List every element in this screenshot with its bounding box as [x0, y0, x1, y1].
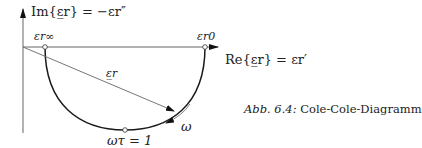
- eps-inf-point: [43, 45, 48, 50]
- x-axis-label: Re{ε̲r} = εr′: [225, 53, 307, 66]
- omega-label: ω: [181, 120, 192, 133]
- y-axis-label: Im{ε̲r} = −εr″: [31, 5, 126, 18]
- eps-0-point: [203, 45, 208, 50]
- caption-text: Cole-Cole-Diagramm: [297, 102, 422, 116]
- permittivity-vector: [23, 47, 174, 111]
- caption-prefix: Abb. 6.4:: [244, 102, 297, 116]
- peak-point: [123, 128, 128, 133]
- eps-inf-label: εr∞: [34, 31, 54, 42]
- figure-caption: Abb. 6.4: Cole-Cole-Diagramm: [244, 104, 422, 116]
- cole-cole-semicircle: [45, 47, 205, 130]
- peak-label: ωτ = 1: [107, 134, 152, 147]
- vector-label: ε̲r: [106, 68, 117, 79]
- eps-0-label: εr0: [197, 31, 215, 42]
